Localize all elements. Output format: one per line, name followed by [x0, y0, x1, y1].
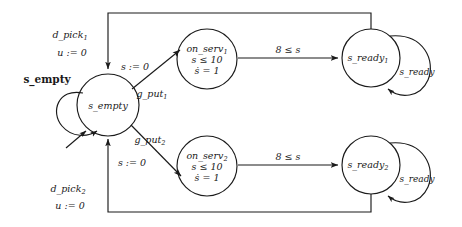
transition-label-d-pick-1: d_pick1 — [52, 29, 87, 42]
automaton-diagram: s_empty s_empty on_serv1 s ≤ 10 ṡ = 1 on… — [0, 0, 462, 227]
self-loop-label-s-ready-1: s_ready — [400, 67, 436, 78]
self-loop-s-ready-1-path — [388, 36, 430, 96]
outer-label-s-empty: s_empty — [23, 73, 71, 87]
self-loop-label-s-ready-2: s_ready — [400, 174, 436, 185]
initial-state-arrow — [66, 131, 86, 148]
state-label-s-empty: s_empty — [88, 100, 128, 112]
transition-label-d-pick-2: d_pick2 — [50, 183, 85, 196]
state-invariant-on-serv-1: s ≤ 10 — [192, 54, 223, 65]
transition-action-d-pick-1: u := 0 — [57, 47, 86, 58]
state-label-s-ready-1: s_ready1 — [347, 52, 388, 65]
self-loop-s-empty-path — [57, 92, 97, 135]
transition-label-g-put-2: g_put2 — [134, 134, 165, 147]
transition-action-g-put-2: s := 0 — [118, 157, 146, 168]
state-flow-on-serv-2: ṡ = 1 — [195, 172, 220, 183]
self-loop-s-ready-2-path — [388, 143, 430, 203]
transition-g-put-2-path — [131, 125, 181, 176]
transition-guard-1-label: 8 ≤ s — [276, 44, 301, 55]
diagram-canvas: s_empty s_empty on_serv1 s ≤ 10 ṡ = 1 on… — [0, 0, 462, 227]
transition-guard-2-label: 8 ≤ s — [276, 151, 301, 162]
state-label-s-ready-2: s_ready2 — [347, 159, 388, 172]
transition-action-d-pick-2: u := 0 — [55, 200, 84, 211]
transition-label-g-put-1: g_put1 — [136, 88, 167, 101]
state-flow-on-serv-1: ṡ = 1 — [195, 65, 220, 76]
transition-d-pick-2-path — [108, 139, 371, 212]
state-invariant-on-serv-2: s ≤ 10 — [192, 161, 223, 172]
transition-action-g-put-1: s := 0 — [121, 61, 149, 72]
